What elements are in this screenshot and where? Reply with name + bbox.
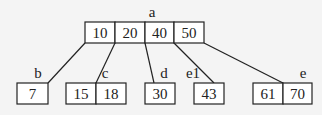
key: 15 [74, 86, 89, 102]
node-label: d [160, 65, 168, 81]
key: 10 [93, 25, 108, 41]
node-e1: e1 43 [186, 65, 224, 104]
key: 43 [202, 86, 217, 102]
node-label: a [149, 4, 156, 20]
key: 50 [182, 25, 197, 41]
key: 20 [123, 25, 138, 41]
node-label: c [102, 65, 109, 81]
key: 18 [104, 86, 119, 102]
node-label: b [34, 65, 42, 81]
key: 61 [261, 86, 276, 102]
key: 30 [153, 86, 168, 102]
edge-a-b [48, 43, 85, 83]
node-b: b 7 [17, 65, 48, 104]
node-a: a 10 20 40 50 [85, 4, 204, 43]
b-tree-diagram: a 10 20 40 50 b 7 c 15 18 d 30 e1 43 e [0, 0, 322, 115]
key: 40 [152, 25, 167, 41]
node-label: e [300, 65, 307, 81]
node-label: e1 [186, 65, 200, 81]
node-d: d 30 [145, 65, 175, 104]
key: 70 [290, 86, 305, 102]
node-c: c 15 18 [66, 65, 126, 104]
key: 7 [29, 86, 37, 102]
node-e: e 61 70 [253, 65, 312, 104]
edge-a-e [204, 43, 283, 83]
edge-a-d [145, 43, 154, 83]
